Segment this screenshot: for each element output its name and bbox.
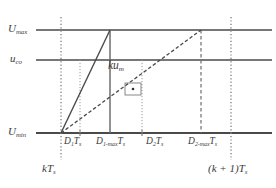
period-label-end: (k + 1)Ts bbox=[208, 163, 247, 174]
period-label-end-base: (k + 1)T bbox=[208, 162, 245, 174]
tick-label-d1max-ts-sub1: 1-max bbox=[103, 141, 118, 147]
tick-label-d1ts-base: D bbox=[64, 136, 71, 146]
period-label-start-sub: s bbox=[53, 168, 56, 175]
ramp-steep bbox=[61, 30, 110, 133]
axis-label-umin-base: U bbox=[8, 125, 16, 137]
axis-label-umax-sub: max bbox=[16, 28, 27, 35]
pwm-ramp-diagram: Umax uco Umin D1Ts D1-maxTs D2Ts D2-maxT… bbox=[0, 0, 276, 188]
axis-label-umax: Umax bbox=[8, 23, 27, 34]
ramp-shallow bbox=[61, 30, 201, 133]
tick-label-d2max-ts-sub2: s bbox=[215, 141, 217, 147]
axis-label-uco-sub: co bbox=[16, 58, 22, 65]
tick-label-d1ts-sub2: s bbox=[79, 141, 81, 147]
tick-label-d2ts-sub1: 2 bbox=[153, 141, 156, 147]
axis-label-umin: Umin bbox=[8, 126, 26, 137]
slope-annotation-kum: kum bbox=[108, 60, 124, 72]
tick-label-d1max-ts-sub2: s bbox=[123, 141, 125, 147]
tick-label-d2ts-base: D bbox=[146, 136, 153, 146]
tick-label-d1max-ts: D1-maxTs bbox=[96, 137, 125, 147]
period-label-start: kTs bbox=[42, 163, 56, 174]
slope-marker-dot bbox=[132, 88, 135, 91]
tick-label-d2ts: D2Ts bbox=[146, 137, 163, 147]
tick-label-d1max-ts-base: D bbox=[96, 136, 103, 146]
tick-label-d2max-ts-sub1: 2-max bbox=[195, 141, 210, 147]
tick-label-d2max-ts: D2-maxTs bbox=[188, 137, 217, 147]
period-label-start-base: kT bbox=[42, 162, 53, 174]
axis-label-uco-base: u bbox=[10, 52, 16, 64]
diagram-canvas bbox=[0, 0, 276, 188]
axis-label-umax-base: U bbox=[8, 22, 16, 34]
axis-label-umin-sub: min bbox=[16, 131, 26, 138]
tick-label-d1ts-sub1: 1 bbox=[71, 141, 74, 147]
tick-label-d2ts-sub2: s bbox=[161, 141, 163, 147]
slope-annotation-base: ku bbox=[108, 59, 119, 71]
axis-label-uco: uco bbox=[10, 53, 22, 64]
tick-label-d1ts: D1Ts bbox=[64, 137, 81, 147]
slope-annotation-sub: m bbox=[119, 65, 124, 73]
tick-label-d2max-ts-base: D bbox=[188, 136, 195, 146]
